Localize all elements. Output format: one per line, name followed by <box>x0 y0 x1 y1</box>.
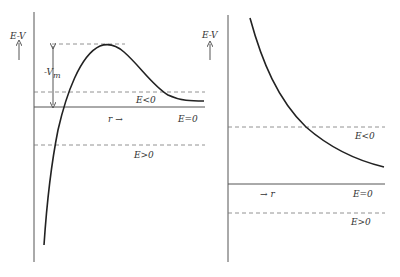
right-panel: E-V E<0 → r E=0 E>0 <box>201 15 385 262</box>
left-level-e-zero: E=0 <box>177 114 198 124</box>
right-level-e-neg: E<0 <box>354 131 375 141</box>
barrier-label: -Vm <box>44 67 61 80</box>
right-y-axis-label: E-V <box>201 30 219 40</box>
right-level-e-zero: E=0 <box>352 189 373 199</box>
left-panel: E-V -Vm E<0 r → E=0 E>0 <box>9 12 205 262</box>
left-x-axis-label: r → <box>108 114 123 124</box>
right-potential-curve <box>250 18 384 167</box>
right-x-axis-label: → r <box>260 189 275 199</box>
left-y-axis-label: E-V <box>9 31 27 41</box>
left-level-e-neg: E<0 <box>135 95 156 105</box>
left-potential-curve <box>44 45 204 245</box>
left-level-e-pos: E>0 <box>133 150 154 160</box>
right-level-e-pos: E>0 <box>350 217 371 227</box>
diagram-canvas: E-V -Vm E<0 r → E=0 E>0 E-V E<0 → r E=0 … <box>0 0 400 277</box>
